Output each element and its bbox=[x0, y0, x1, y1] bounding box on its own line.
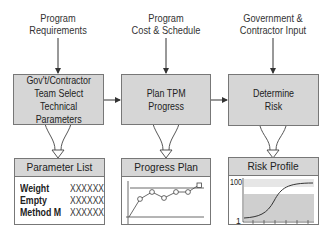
process-plan-tpm-progress: Plan TPM Progress bbox=[121, 74, 211, 125]
risk-y-max-label: 100 bbox=[230, 177, 242, 187]
risk-y-min-label: 1 bbox=[236, 216, 241, 226]
param-value: XXXXXX bbox=[70, 183, 104, 195]
risk-profile-chart bbox=[229, 176, 320, 226]
process-text: Team Select bbox=[26, 87, 91, 100]
panel-title-text: Risk Profile bbox=[248, 158, 299, 175]
param-name: Weight bbox=[20, 183, 49, 195]
panel-title: Parameter List bbox=[15, 159, 104, 177]
panel-title: Progress Plan bbox=[122, 159, 210, 177]
process-text: Determine bbox=[253, 87, 294, 100]
param-name: Method M bbox=[20, 207, 61, 219]
param-value: XXXXXX bbox=[70, 195, 104, 207]
panel-parameter-list: Parameter List Weight XXXXXX Empty XXXXX… bbox=[14, 158, 105, 225]
panel-title-text: Parameter List bbox=[27, 159, 93, 176]
process-text: Parameters bbox=[26, 113, 91, 126]
process-text: Plan TPM bbox=[147, 87, 186, 100]
process-text: Risk bbox=[253, 100, 294, 113]
process-text: Technical bbox=[26, 100, 91, 113]
process-text: Progress bbox=[147, 100, 186, 113]
progress-plan-chart bbox=[122, 177, 212, 226]
panel-title: Risk Profile bbox=[229, 158, 318, 176]
panel-title-text: Progress Plan bbox=[134, 159, 198, 176]
process-determine-risk: Determine Risk bbox=[228, 74, 319, 126]
panel-progress-plan: Progress Plan bbox=[121, 158, 211, 225]
param-name: Empty bbox=[20, 195, 47, 207]
param-value: XXXXXX bbox=[70, 207, 104, 219]
process-text: Gov't/Contractor bbox=[26, 74, 91, 87]
process-select-parameters: Gov't/Contractor Team Select Technical P… bbox=[13, 74, 104, 125]
panel-risk-profile: Risk Profile 100 1 bbox=[228, 157, 319, 225]
